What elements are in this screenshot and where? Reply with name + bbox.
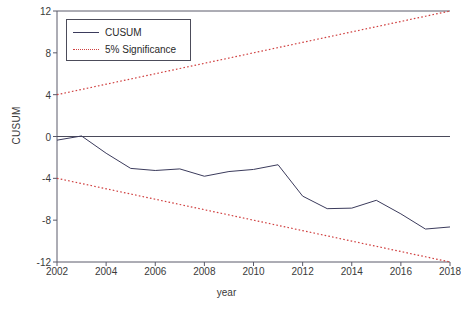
- x-axis-tick-label: 2016: [390, 266, 412, 277]
- x-axis-tick-label: 2004: [95, 266, 117, 277]
- y-axis-tick-label: 12: [21, 6, 51, 17]
- series-line-0: [57, 136, 450, 229]
- x-axis-title: year: [0, 287, 453, 298]
- x-axis-tick-label: 2010: [242, 266, 264, 277]
- legend-item-significance: 5% Significance: [73, 42, 176, 56]
- legend-swatch-cusum-icon: [73, 32, 99, 33]
- y-axis-tick-label: 4: [21, 89, 51, 100]
- x-axis-tick-label: 2014: [341, 266, 363, 277]
- x-axis-tick-label: 2002: [46, 266, 68, 277]
- x-axis-tick-label: 2006: [144, 266, 166, 277]
- legend-swatch-significance-icon: [73, 49, 99, 50]
- x-axis-tick-label: 2018: [439, 266, 461, 277]
- x-axis-tick-label: 2012: [292, 266, 314, 277]
- y-axis-tick-label: 8: [21, 47, 51, 58]
- y-axis-tick-label: 0: [21, 131, 51, 142]
- chart-legend: CUSUM 5% Significance: [66, 19, 191, 61]
- series-line-2: [57, 178, 450, 262]
- legend-item-cusum: CUSUM: [73, 25, 142, 39]
- y-axis-tick-label: -4: [21, 173, 51, 184]
- y-axis-tick-label: -8: [21, 215, 51, 226]
- x-axis-tick-label: 2008: [193, 266, 215, 277]
- legend-label-significance: 5% Significance: [105, 44, 176, 55]
- legend-label-cusum: CUSUM: [105, 27, 142, 38]
